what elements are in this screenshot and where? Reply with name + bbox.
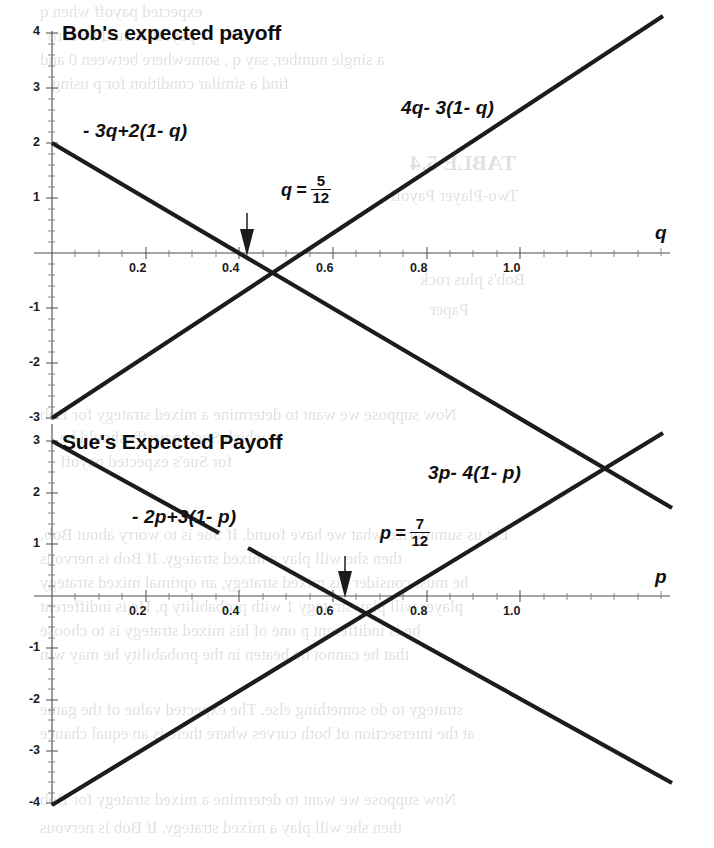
- series-label-sue-rising: 3p- 4(1- p): [428, 462, 521, 484]
- x-tick-label-sue: 0.2: [129, 604, 146, 618]
- y-tick-label-bob: -1: [8, 300, 40, 314]
- curve-bob-rising: [52, 16, 663, 418]
- chart-sue-curves: [52, 433, 672, 805]
- curve-sue-rising: [52, 433, 663, 805]
- series-label-bob-declining: - 3q+2(1- q): [83, 120, 187, 142]
- y-tick-label-sue: 2: [16, 485, 40, 499]
- x-tick-label-sue: 0.8: [410, 604, 427, 618]
- x-tick-label-sue: 0.4: [222, 604, 239, 618]
- y-tick-label-bob: 2: [16, 135, 40, 149]
- annotation-variable-bob: q: [281, 180, 292, 201]
- x-axis-label-sue: p: [655, 566, 667, 588]
- fraction-denominator-bob: 12: [311, 189, 332, 205]
- annotation-sue: p = 7 12: [380, 517, 430, 549]
- annotation-bob: q = 5 12: [281, 174, 331, 206]
- annotation-fraction-sue: 7 12: [410, 516, 431, 548]
- chart-bob-axes: [34, 31, 670, 420]
- fraction-numerator-sue: 7: [414, 516, 426, 531]
- y-tick-label-bob: 1: [16, 190, 40, 204]
- chart-title-bob: Bob's expected payoff: [62, 21, 281, 45]
- x-tick-label-sue: 0.6: [316, 604, 333, 618]
- x-axis-label-bob: q: [655, 222, 667, 244]
- x-tick-label-bob: 0.6: [316, 261, 333, 275]
- annotation-arrow-sue: [338, 556, 352, 598]
- series-label-sue-declining: - 2p+3(1- p): [132, 506, 236, 528]
- chart-title-sue: Sue's Expected Payoff: [62, 430, 282, 454]
- y-tick-label-sue: 3: [16, 433, 40, 447]
- series-label-bob-rising: 4q- 3(1- q): [401, 97, 494, 119]
- annotation-equals-sue: =: [395, 523, 406, 544]
- y-tick-label-bob: 3: [16, 80, 40, 94]
- x-tick-label-bob: 0.4: [222, 261, 239, 275]
- x-tick-label-bob: 0.8: [410, 261, 427, 275]
- y-tick-label-bob: -2: [8, 355, 40, 369]
- y-tick-label-sue: -4: [8, 795, 40, 809]
- y-tick-label-bob: 4: [16, 24, 40, 38]
- y-tick-label-bob: -3: [8, 410, 40, 424]
- x-tick-label-bob: 1.0: [503, 261, 520, 275]
- fraction-denominator-sue: 12: [410, 532, 431, 548]
- y-tick-label-sue: -1: [8, 640, 40, 654]
- y-tick-label-sue: -2: [8, 692, 40, 706]
- annotation-equals-bob: =: [296, 180, 307, 201]
- annotation-fraction-bob: 5 12: [311, 173, 332, 205]
- annotation-arrow-bob: [240, 213, 254, 256]
- curve-sue-declining-part2: [248, 548, 672, 783]
- x-tick-label-sue: 1.0: [503, 604, 520, 618]
- x-tick-label-bob: 0.2: [129, 261, 146, 275]
- payoff-figure: Bob's expected payoff 4 3 2 1 -1 -2 -3 0…: [0, 0, 714, 848]
- y-tick-label-sue: 1: [16, 536, 40, 550]
- annotation-variable-sue: p: [380, 523, 391, 544]
- y-tick-label-sue: -3: [8, 743, 40, 757]
- fraction-numerator-bob: 5: [315, 173, 327, 188]
